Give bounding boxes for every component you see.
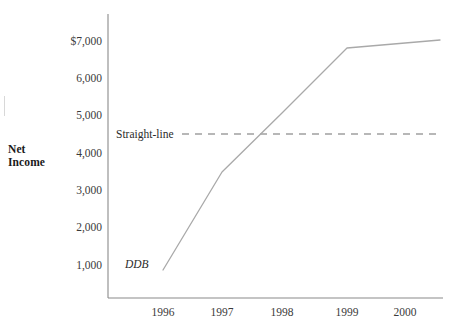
ddb-series — [163, 40, 440, 270]
plot-area — [0, 0, 458, 332]
depreciation-comparison-chart: Net Income $7,000 6,000 5,000 4,000 3,00… — [0, 0, 458, 332]
